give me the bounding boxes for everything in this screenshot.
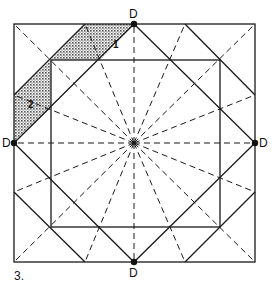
figure-number: 3. [14, 269, 24, 283]
label-d-top: D [129, 7, 138, 21]
region-label-1: 1 [113, 39, 119, 50]
label-d-bottom: D [129, 266, 138, 280]
point-d-bottom [131, 259, 137, 265]
label-d-right: D [259, 136, 268, 150]
point-d-left [11, 140, 17, 146]
shaded-region-1 [51, 24, 134, 60]
point-d-top [131, 21, 137, 27]
point-d-right [252, 140, 258, 146]
region-label-2: 2 [28, 99, 34, 110]
folding-diagram: D D D D 1 2 3. [0, 0, 272, 283]
label-d-left: D [2, 136, 11, 150]
